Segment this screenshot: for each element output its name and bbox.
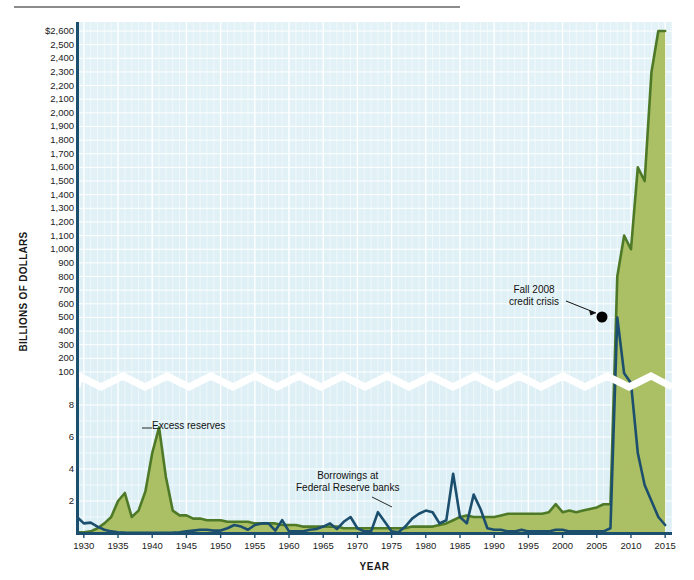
y-tick-label: 2 [28, 496, 74, 505]
y-tick-label: 1,300 [28, 203, 74, 212]
y-tick-label: 4 [28, 464, 74, 473]
y-tick-label: 1,200 [28, 217, 74, 226]
y-tick-label: 500 [28, 312, 74, 321]
y-tick-label: 2,000 [28, 108, 74, 117]
y-tick-label: 1,800 [28, 135, 74, 144]
y-tick-label: 1,400 [28, 190, 74, 199]
y-tick-label: 1,900 [28, 121, 74, 130]
y-tick-label: 8 [28, 400, 74, 409]
y-tick-label: 1,700 [28, 149, 74, 158]
y-tick-label: $2,600 [28, 26, 74, 35]
annotation-crisis-line1: Fall 2008 [509, 284, 559, 296]
y-tick-label: 2,500 [28, 40, 74, 49]
y-tick-label: 100 [28, 367, 74, 376]
y-tick-label: 900 [28, 258, 74, 267]
y-tick-label: 300 [28, 340, 74, 349]
annotation-crisis-line2: credit crisis [509, 296, 559, 308]
y-tick-label: 6 [28, 432, 74, 441]
y-tick-label: 2,400 [28, 53, 74, 62]
y-tick-label: 2,300 [28, 67, 74, 76]
x-tick-label: 2015 [645, 540, 685, 551]
y-tick-label: 1,100 [28, 231, 74, 240]
y-tick-label: 1,500 [28, 176, 74, 185]
y-tick-label: 1,600 [28, 162, 74, 171]
annotation-fall-2008-credit-crisis: Fall 2008 credit crisis [509, 284, 559, 308]
x-axis-title: YEAR [77, 561, 672, 572]
annotation-excess-reserves-text: Excess reserves [152, 420, 225, 431]
y-tick-label: 1,000 [28, 244, 74, 253]
annotation-borrowings: Borrowings at Federal Reserve banks [296, 470, 399, 494]
crisis-point-marker [597, 312, 608, 323]
y-tick-label: 200 [28, 353, 74, 362]
annotation-borrowings-line2: Federal Reserve banks [296, 482, 399, 494]
y-tick-label: 800 [28, 272, 74, 281]
annotation-excess-reserves: Excess reserves [152, 420, 225, 432]
y-tick-label: 2,200 [28, 81, 74, 90]
y-tick-label: 400 [28, 326, 74, 335]
y-tick-label: 600 [28, 299, 74, 308]
chart-figure: BILLIONS OF DOLLARS $2,6002,5002,4002,30… [0, 0, 694, 580]
y-tick-label: 700 [28, 285, 74, 294]
annotation-borrowings-line1: Borrowings at [296, 470, 399, 482]
y-axis-tick-labels: $2,6002,5002,4002,3002,2002,1002,0001,90… [26, 0, 74, 580]
y-tick-label: 2,100 [28, 94, 74, 103]
